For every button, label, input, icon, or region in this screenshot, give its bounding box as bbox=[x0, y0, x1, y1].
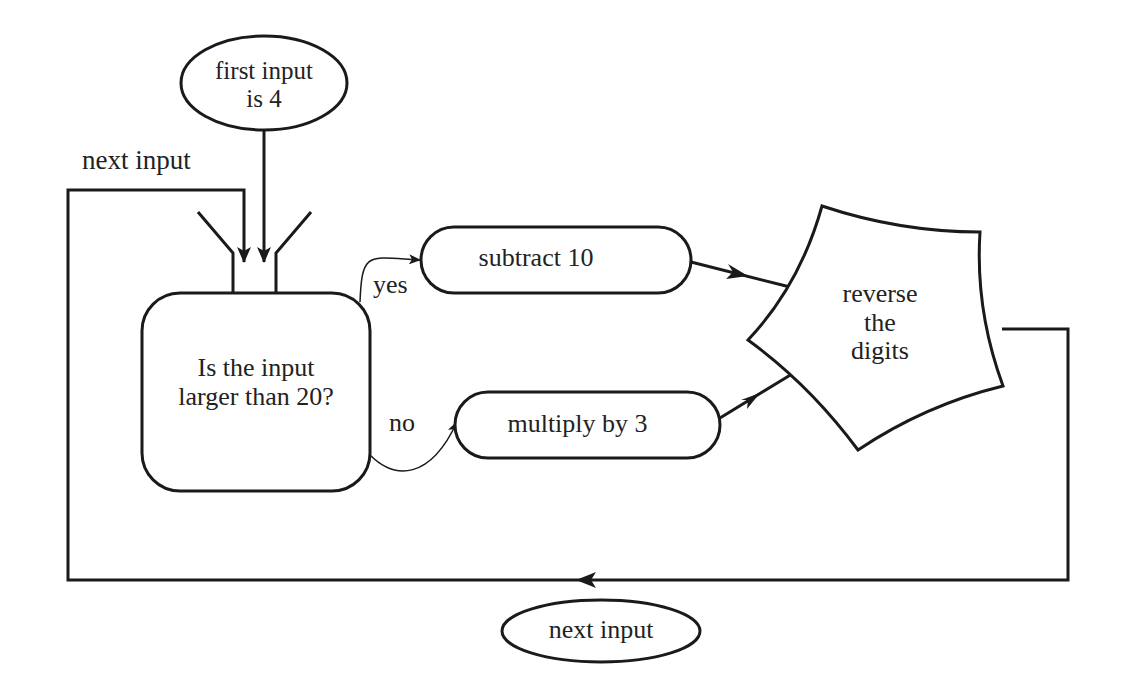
decision-node-line1: Is the input bbox=[142, 354, 370, 383]
start-node-label: first input is 4 bbox=[184, 57, 344, 112]
reverse-node-line1: reverse bbox=[812, 280, 948, 309]
next-input-node-label: next input bbox=[502, 616, 700, 645]
yes-label: yes bbox=[373, 271, 408, 300]
funnel-left bbox=[198, 212, 233, 293]
reverse-node-line3: digits bbox=[812, 337, 948, 366]
no-label: no bbox=[389, 409, 415, 438]
reverse-node-label: reverse the digits bbox=[812, 280, 948, 366]
reverse-node-line2: the bbox=[812, 309, 948, 338]
subtract-node-label: subtract 10 bbox=[421, 244, 651, 273]
multiply-arrowhead bbox=[741, 393, 760, 409]
start-node-line1: first input bbox=[184, 57, 344, 85]
start-node-line2: is 4 bbox=[184, 85, 344, 113]
multiply-node-label: multiply by 3 bbox=[455, 410, 700, 439]
decision-node-line2: larger than 20? bbox=[142, 383, 370, 412]
flowchart-diagram: first input is 4 next input Is the input… bbox=[0, 0, 1128, 696]
funnel-right bbox=[276, 212, 311, 293]
decision-node-label: Is the input larger than 20? bbox=[142, 354, 370, 411]
loop-in-label: next input bbox=[82, 146, 191, 176]
diagram-graphics bbox=[0, 0, 1128, 696]
